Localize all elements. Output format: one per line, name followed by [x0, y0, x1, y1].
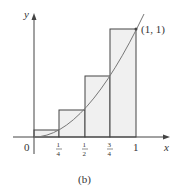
y-axis-arrow-icon [32, 13, 37, 20]
origin-label: 0 [24, 141, 30, 153]
x-axis-arrow-icon [163, 135, 170, 140]
point-marker [135, 28, 138, 31]
tick-3-4-den: 4 [108, 150, 112, 158]
caption: (b) [78, 173, 91, 186]
rectangles [34, 29, 136, 137]
tick-3-4-num: 3 [108, 141, 112, 149]
tick-1-2-num: 1 [83, 141, 87, 149]
riemann-diagram: (1, 1) y x 0 1 4 1 2 3 4 1 (b) [0, 0, 178, 189]
y-axis-label: y [23, 8, 29, 20]
tick-1-4-num: 1 [57, 141, 61, 149]
tick-1-4-den: 4 [57, 150, 61, 158]
point-label: (1, 1) [141, 23, 165, 36]
x-axis-label: x [163, 141, 169, 153]
tick-1: 1 [133, 141, 139, 153]
tick-1-2-den: 2 [83, 150, 87, 158]
